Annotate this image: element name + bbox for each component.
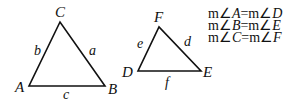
vertex-label-c: C [55,4,66,20]
vertex-label-b: B [108,81,117,97]
side-label-b: b [34,43,41,58]
equation-angle-c-f: m∠C=m∠F [208,32,282,44]
vertex-label-d: D [121,64,133,80]
side-label-c: c [63,87,70,102]
vertex-label-f: F [153,9,164,25]
side-label-f: f [165,75,171,90]
side-label-e: e [137,36,143,51]
angle-measure-prefix: m∠ [249,30,273,45]
angle-var: F [273,30,282,45]
equals-sign: = [241,30,249,45]
angle-var: C [232,30,241,45]
vertex-label-a: A [14,79,25,95]
side-label-a: a [89,43,96,58]
angle-measure-prefix: m∠ [208,30,232,45]
side-label-d: d [184,34,192,49]
vertex-label-e: E [202,64,212,80]
triangle-def [138,27,201,71]
